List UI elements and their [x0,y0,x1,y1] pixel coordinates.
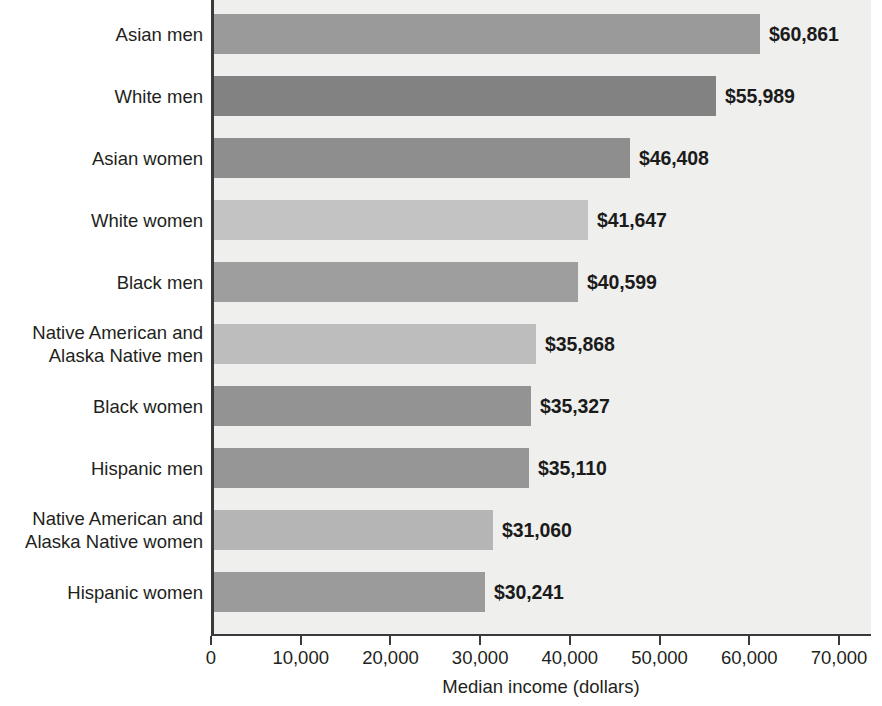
bar-row: $55,989 [214,76,874,116]
category-label: Native American and Alaska Native men [0,321,203,367]
bar-row: $35,110 [214,448,874,488]
x-tick [748,636,750,645]
category-label: Native American and Alaska Native women [0,507,203,553]
category-label: Black women [0,395,203,418]
x-tick-label: 10,000 [272,647,329,669]
bar [214,76,716,116]
bar [214,448,529,488]
bar-value-label: $31,060 [502,519,572,542]
category-label: Asian men [0,23,203,46]
bar [214,324,536,364]
bar [214,386,531,426]
plot-area: $60,861$55,989$46,408$41,647$40,599$35,8… [211,0,871,634]
bar-value-label: $35,327 [540,395,610,418]
x-tick-label: 30,000 [452,647,509,669]
bar-row: $31,060 [214,510,874,550]
x-tick-label: 0 [206,647,216,669]
category-axis-labels: Asian menWhite menAsian womenWhite women… [0,0,203,634]
bar-row: $30,241 [214,572,874,612]
x-tick [389,636,391,645]
bar [214,14,760,54]
bar [214,200,588,240]
bar-row: $60,861 [214,14,874,54]
category-label: Hispanic women [0,581,203,604]
bar [214,262,578,302]
category-label: Asian women [0,147,203,170]
category-label: White men [0,85,203,108]
bar-row: $46,408 [214,138,874,178]
bar-value-label: $46,408 [639,147,709,170]
x-tick-label: 70,000 [811,647,868,669]
x-tick-label: 60,000 [721,647,778,669]
bar-value-label: $41,647 [597,209,667,232]
bar-value-label: $35,110 [538,457,607,480]
x-tick [838,636,840,645]
bar-row: $41,647 [214,200,874,240]
x-tick-label: 20,000 [362,647,419,669]
category-label: Hispanic men [0,457,203,480]
median-income-bar-chart: Asian menWhite menAsian womenWhite women… [0,0,882,706]
bar-row: $35,868 [214,324,874,364]
x-tick-label: 40,000 [542,647,599,669]
x-tick [300,636,302,645]
bar-row: $35,327 [214,386,874,426]
bar-row: $40,599 [214,262,874,302]
x-axis-title: Median income (dollars) [211,676,871,698]
bar-value-label: $40,599 [587,271,657,294]
bar-value-label: $30,241 [494,581,564,604]
bar [214,138,630,178]
bar [214,572,485,612]
category-label: Black men [0,271,203,294]
x-tick [569,636,571,645]
x-axis-line [211,634,871,636]
x-tick [479,636,481,645]
x-tick-label: 50,000 [631,647,688,669]
category-label: White women [0,209,203,232]
bar-value-label: $55,989 [725,85,795,108]
bar-value-label: $35,868 [545,333,615,356]
bar [214,510,493,550]
x-tick [210,636,212,645]
bar-value-label: $60,861 [769,23,839,46]
x-tick [659,636,661,645]
